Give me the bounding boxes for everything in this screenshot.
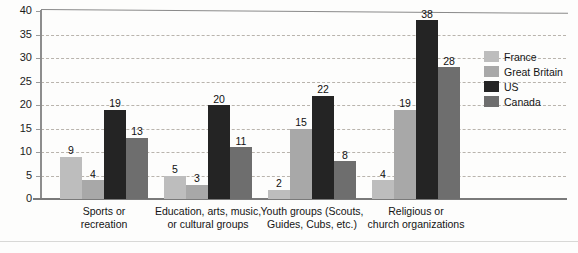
- legend-swatch: [484, 66, 499, 77]
- bar: 9: [60, 157, 82, 199]
- bar-value-label: 13: [131, 126, 143, 137]
- bar-group: 215228: [268, 11, 356, 199]
- bar: 2: [268, 190, 290, 199]
- legend-swatch: [484, 81, 499, 92]
- bar-group: 4193828: [372, 11, 460, 199]
- bar: 3: [186, 185, 208, 199]
- bar-group: 941913: [60, 11, 148, 199]
- y-axis-tick-label: 0: [8, 192, 32, 204]
- legend-item: US: [484, 79, 563, 94]
- bar: 5: [164, 176, 186, 200]
- bar: 4: [82, 180, 104, 199]
- bar-value-label: 11: [236, 136, 247, 147]
- category-label: Religious or church organizations: [336, 205, 496, 232]
- bar: 28: [438, 67, 460, 199]
- legend-label: Canada: [504, 96, 541, 108]
- caption-fragment: [14, 245, 154, 251]
- figure-bottom-rule: [0, 241, 578, 242]
- bar: 19: [394, 110, 416, 199]
- y-axis-tick-label: 30: [8, 51, 32, 63]
- bar: 38: [416, 20, 438, 199]
- bar-value-label: 4: [90, 169, 96, 180]
- bar-value-label: 38: [421, 9, 433, 20]
- bar-value-label: 15: [295, 117, 307, 128]
- y-axis-tick-label: 40: [8, 4, 32, 16]
- bar: 13: [126, 138, 148, 199]
- legend-label: US: [504, 81, 519, 93]
- bar-chart-figure: 0510152025303540 94191353201121522841938…: [0, 0, 578, 253]
- bar-value-label: 19: [399, 98, 411, 109]
- y-axis-tick-label: 20: [8, 98, 32, 110]
- bar: 4: [372, 180, 394, 199]
- bar-group: 532011: [164, 11, 252, 199]
- legend-label: Great Britain: [504, 66, 563, 78]
- bar: 22: [312, 96, 334, 199]
- bar-value-label: 8: [342, 150, 348, 161]
- bar: 15: [290, 129, 312, 200]
- legend-label: France: [504, 51, 537, 63]
- bar-value-label: 9: [68, 145, 74, 156]
- bar-value-label: 3: [194, 173, 200, 184]
- bar: 20: [208, 105, 230, 199]
- bar: 19: [104, 110, 126, 199]
- legend-item: France: [484, 49, 563, 64]
- y-axis-tick-label: 10: [8, 145, 32, 157]
- y-axis-tick-label: 25: [8, 75, 32, 87]
- bar: 11: [230, 147, 252, 199]
- bar-value-label: 20: [213, 94, 225, 105]
- legend: FranceGreat BritainUSCanada: [484, 49, 563, 109]
- bar-value-label: 28: [443, 56, 455, 67]
- y-axis-tick-label: 5: [8, 169, 32, 181]
- bar: 8: [334, 161, 356, 199]
- bar-value-label: 22: [317, 84, 329, 95]
- y-axis-tick-label: 15: [8, 122, 32, 134]
- bar-value-label: 19: [109, 98, 121, 109]
- bar-value-label: 2: [276, 178, 282, 189]
- y-axis-tick-label: 35: [8, 28, 32, 40]
- legend-item: Canada: [484, 94, 563, 109]
- bar-value-label: 4: [380, 169, 386, 180]
- legend-swatch: [484, 51, 499, 62]
- legend-swatch: [484, 96, 499, 107]
- bar-value-label: 5: [172, 164, 178, 175]
- legend-item: Great Britain: [484, 64, 563, 79]
